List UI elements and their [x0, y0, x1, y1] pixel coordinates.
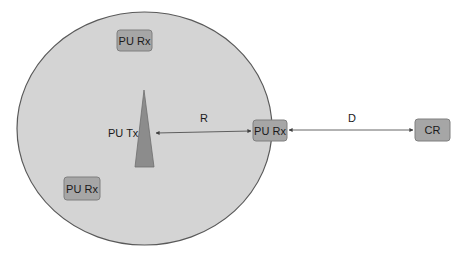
pu-rx-node-top: PU Rx — [117, 30, 152, 51]
distance-r-label: R — [200, 112, 208, 124]
pu-tx-label: PU Tx — [108, 127, 139, 139]
pu-rx-top-label: PU Rx — [119, 35, 151, 47]
pu-rx-bottom-left-label: PU Rx — [66, 183, 98, 195]
cr-label: CR — [425, 124, 441, 136]
pu-rx-node-bottom-left: PU Rx — [64, 177, 100, 200]
pu-rx-node-edge: PU Rx — [253, 120, 287, 141]
cognitive-radio-node: CR — [415, 119, 450, 141]
pu-rx-edge-label: PU Rx — [254, 125, 286, 137]
distance-d-label: D — [348, 112, 356, 124]
coverage-diagram: PU Tx R D PU Rx PU Rx PU Rx CR — [0, 0, 466, 262]
